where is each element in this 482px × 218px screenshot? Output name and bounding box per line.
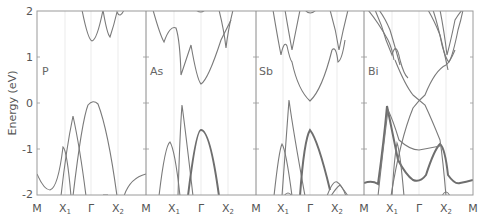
ytick-1: 1	[26, 51, 33, 64]
kpoint-label: X1	[277, 202, 289, 216]
kpoint-label: X1	[386, 202, 398, 216]
panel-bi-bands	[364, 10, 473, 196]
kpath-labels: M X1 Γ X2 M X1 Γ X2 M X1 Γ X2 M X1 Γ X2 …	[32, 202, 478, 216]
kpoint-label: X2	[222, 202, 234, 216]
panel-label-bi: Bi	[368, 65, 379, 78]
ytick-neg2: -2	[22, 188, 33, 201]
kpoint-label: X2	[112, 202, 124, 216]
kpoint-label: M	[251, 202, 261, 215]
kpoint-label: X2	[331, 202, 343, 216]
kpoint-label: M	[141, 202, 151, 215]
y-ticks: 2 1 0 -1 -2	[22, 5, 33, 201]
panel-label-as: As	[150, 65, 164, 78]
kpoint-label: M	[359, 202, 369, 215]
kpoint-label: Γ	[198, 202, 205, 215]
band-structure-chart: Energy (eV) 2 1 0 -1 -2	[0, 0, 482, 218]
ytick-2: 2	[26, 5, 33, 18]
ytick-neg1: -1	[22, 143, 33, 156]
kpoint-label: Γ	[416, 202, 423, 215]
kpoint-label: M	[468, 202, 478, 215]
kpoint-label: M	[32, 202, 42, 215]
kpoint-label: X1	[168, 202, 180, 216]
kpoint-label: Γ	[88, 202, 95, 215]
kpoint-label: X1	[59, 202, 71, 216]
panel-label-sb: Sb	[259, 65, 273, 78]
kpoint-label: Γ	[307, 202, 314, 215]
panel-as-bands	[153, 10, 233, 196]
panel-label-p: P	[42, 65, 49, 78]
kpoint-label: X2	[440, 202, 452, 216]
ytick-marks	[37, 57, 473, 149]
y-axis-label: Energy (eV)	[6, 71, 19, 136]
ytick-0: 0	[26, 97, 33, 110]
panel-p-bands	[37, 10, 146, 196]
